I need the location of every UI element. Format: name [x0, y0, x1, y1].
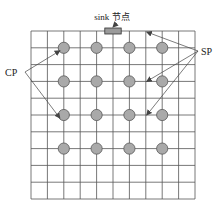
- sink-label: sink 节点: [94, 12, 129, 22]
- sensor-node: [124, 42, 135, 53]
- sensor-node: [91, 109, 102, 120]
- cp-label: CP: [5, 67, 18, 78]
- sensor-node: [124, 109, 135, 120]
- sensor-node: [157, 76, 168, 87]
- sensor-node: [157, 109, 168, 120]
- sensor-node: [124, 76, 135, 87]
- sensor-node: [124, 143, 135, 154]
- grid: [31, 31, 195, 199]
- sensor-node: [58, 109, 69, 120]
- sensor-node: [157, 143, 168, 154]
- sp-arrow: [147, 51, 198, 81]
- sink-node: [105, 28, 121, 34]
- sink-arrow: [113, 23, 117, 27]
- sensor-node: [58, 143, 69, 154]
- sensor-grid-diagram: sink 节点 CP SP: [0, 0, 224, 218]
- sensor-node: [91, 76, 102, 87]
- sp-label: SP: [201, 46, 213, 57]
- sensor-node: [91, 42, 102, 53]
- sensor-node: [58, 76, 69, 87]
- sensor-node: [157, 42, 168, 53]
- sensor-node: [91, 143, 102, 154]
- label-arrows: [25, 23, 198, 118]
- sensor-node: [58, 42, 69, 53]
- cp-arrow: [25, 72, 60, 118]
- sp-arrow: [147, 51, 198, 115]
- cp-arrow: [25, 51, 60, 72]
